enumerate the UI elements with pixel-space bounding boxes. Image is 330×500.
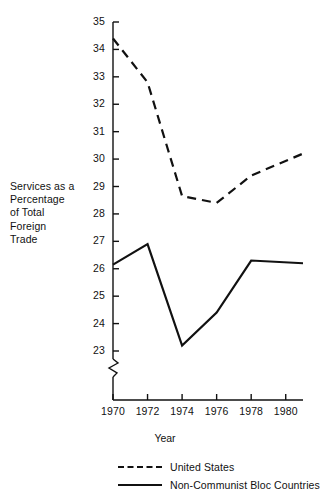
y-axis-tick-label: 27 (83, 234, 105, 246)
legend-item-non-communist-bloc-countries: Non-Communist Bloc Countries (118, 476, 330, 494)
legend-label: United States (170, 461, 234, 473)
legend-item-united-states: United States (118, 458, 330, 476)
chart-figure: Services as a Percentage of Total Foreig… (0, 0, 330, 500)
x-axis-tick-label: 1980 (268, 405, 304, 417)
y-axis-tick-label: 30 (83, 152, 105, 164)
x-axis-label: Year (0, 432, 330, 444)
y-axis-tick-label: 35 (83, 15, 105, 27)
legend-swatch-dashed-icon (118, 462, 162, 472)
x-axis-tick-label: 1972 (130, 405, 166, 417)
y-axis-tick-label: 26 (83, 262, 105, 274)
y-axis-tick-label: 24 (83, 317, 105, 329)
x-axis-tick-label: 1978 (233, 405, 269, 417)
legend-label: Non-Communist Bloc Countries (170, 479, 320, 491)
y-axis-tick-label: 25 (83, 289, 105, 301)
plot-area (0, 0, 330, 500)
chart-legend: United States Non-Communist Bloc Countri… (118, 458, 330, 494)
x-axis-tick-label: 1974 (164, 405, 200, 417)
y-axis-tick-label: 34 (83, 42, 105, 54)
y-axis-tick-label: 33 (83, 70, 105, 82)
series-line-non-communist-bloc-countries (113, 244, 303, 345)
y-axis-tick-label: 32 (83, 97, 105, 109)
legend-swatch-solid-icon (118, 480, 162, 490)
y-axis-tick-label: 29 (83, 180, 105, 192)
x-axis-tick-label: 1976 (199, 405, 235, 417)
x-axis-tick-label: 1970 (95, 405, 131, 417)
y-axis-tick-label: 23 (83, 344, 105, 356)
y-axis-break-icon (109, 359, 118, 377)
series-line-united-states (113, 38, 303, 203)
y-axis-tick-label: 28 (83, 207, 105, 219)
y-axis-tick-label: 31 (83, 125, 105, 137)
